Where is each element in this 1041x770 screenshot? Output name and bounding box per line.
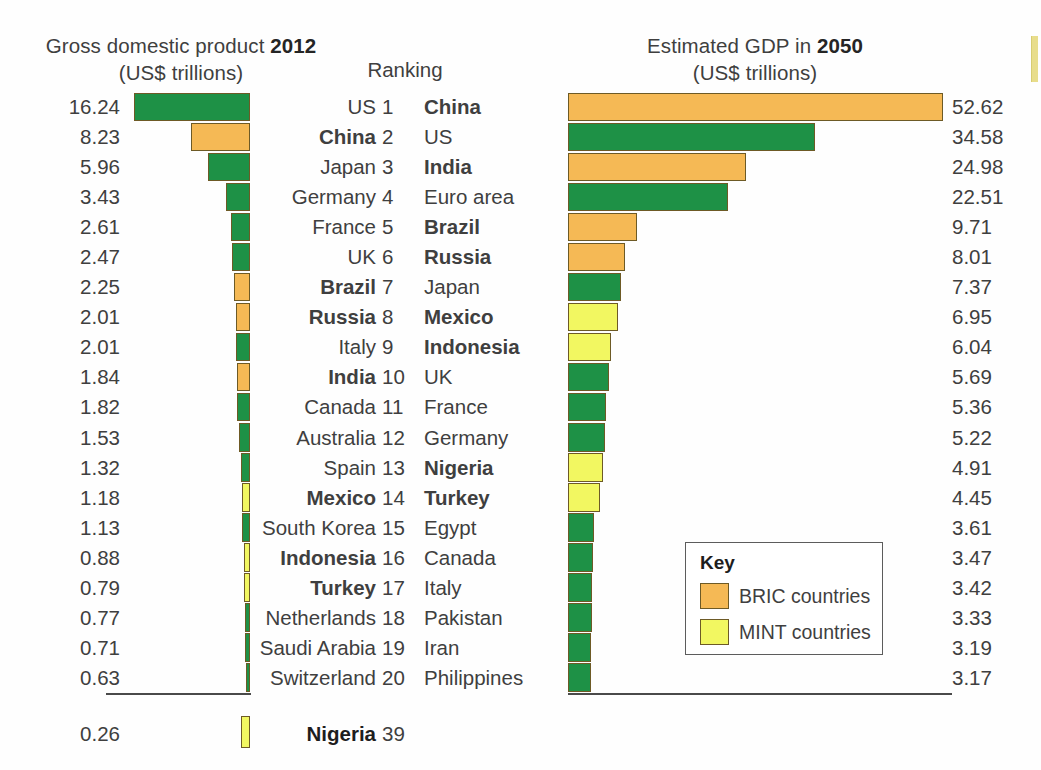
rank-number: 18 <box>382 606 405 630</box>
right-value-label: 4.91 <box>952 456 992 480</box>
left-bar <box>134 93 250 122</box>
chart-row: 20 <box>382 663 416 693</box>
chart-row: Netherlands <box>258 603 376 633</box>
right-title-text: Estimated GDP in <box>647 34 817 57</box>
left-value-label: 0.63 <box>80 666 120 690</box>
right-value-label: 52.62 <box>952 95 1003 119</box>
right-bar <box>568 333 611 362</box>
chart-row: Italy <box>424 573 564 603</box>
ranking-2012-country: Indonesia <box>280 546 376 570</box>
left-bar <box>237 363 250 392</box>
left-bar <box>232 243 250 272</box>
right-bar <box>568 273 621 302</box>
ranking-2050-country: Nigeria <box>424 456 494 480</box>
right-value-labels-column: 52.6234.5824.9822.519.718.017.376.956.04… <box>952 92 1041 693</box>
ranking-2050-country: Philippines <box>424 666 523 690</box>
chart-row: 5.36 <box>952 392 1041 422</box>
chart-row: Canada <box>424 543 564 573</box>
rank-number: 19 <box>382 636 405 660</box>
chart-row <box>125 182 250 212</box>
nigeria-value-label: 0.26 <box>30 722 120 746</box>
rank-number: 8 <box>382 305 393 329</box>
rank-number: 15 <box>382 516 405 540</box>
chart-row <box>125 332 250 362</box>
right-bar <box>568 513 594 542</box>
gdp-ranking-infographic: Gross domestic product 2012 (US$ trillio… <box>0 0 1041 770</box>
left-value-label: 8.23 <box>80 125 120 149</box>
ranking-2050-country: Egypt <box>424 516 476 540</box>
chart-row: Canada <box>258 392 376 422</box>
chart-row: 5 <box>382 212 416 242</box>
chart-row <box>125 272 250 302</box>
left-title-text: Gross domestic product <box>46 34 270 57</box>
ranking-2050-country: UK <box>424 365 452 389</box>
ranking-2012-country: Japan <box>320 155 376 179</box>
right-value-label: 34.58 <box>952 125 1003 149</box>
left-value-label: 1.32 <box>80 456 120 480</box>
chart-row: 5.22 <box>952 423 1041 453</box>
chart-row: 13 <box>382 453 416 483</box>
chart-row: 8.23 <box>30 122 120 152</box>
chart-row: China <box>424 92 564 122</box>
right-bar <box>568 93 943 122</box>
left-value-label: 3.43 <box>80 185 120 209</box>
right-bar <box>568 453 603 482</box>
chart-row <box>125 152 250 182</box>
left-value-label: 0.77 <box>80 606 120 630</box>
chart-row: 7.37 <box>952 272 1041 302</box>
chart-row: 3.61 <box>952 513 1041 543</box>
chart-row <box>125 302 250 332</box>
chart-row <box>125 362 250 392</box>
chart-row: 3.47 <box>952 543 1041 573</box>
chart-row: Japan <box>424 272 564 302</box>
chart-row: South Korea <box>258 513 376 543</box>
nigeria-bar <box>241 716 250 748</box>
chart-row: 1.82 <box>30 392 120 422</box>
rank-number: 11 <box>382 395 403 419</box>
chart-row: 1.18 <box>30 483 120 513</box>
left-value-label: 2.25 <box>80 275 120 299</box>
chart-row <box>125 573 250 603</box>
ranking-2050-names-column: ChinaUSIndiaEuro areaBrazilRussiaJapanMe… <box>424 92 564 693</box>
chart-row <box>568 423 958 453</box>
ranking-2012-country: India <box>328 365 376 389</box>
left-title-year: 2012 <box>270 34 316 57</box>
rank-number: 13 <box>382 456 405 480</box>
chart-row: 3.33 <box>952 603 1041 633</box>
legend-key-box: Key BRIC countries MINT countries <box>685 542 883 655</box>
chart-row <box>568 152 958 182</box>
chart-row <box>568 92 958 122</box>
ranking-2012-country: China <box>319 125 376 149</box>
rank-number: 17 <box>382 576 405 600</box>
chart-row <box>568 302 958 332</box>
chart-row: 52.62 <box>952 92 1041 122</box>
ranking-2012-country: Germany <box>292 185 376 209</box>
ranking-2012-country: Spain <box>324 456 376 480</box>
right-value-label: 3.47 <box>952 546 992 570</box>
chart-row: Mexico <box>424 302 564 332</box>
chart-row: 4.91 <box>952 453 1041 483</box>
chart-row: Mexico <box>258 483 376 513</box>
right-bar <box>568 423 605 452</box>
ranking-2012-country: Brazil <box>320 275 376 299</box>
ranking-2050-country: Germany <box>424 426 508 450</box>
chart-row: US <box>258 92 376 122</box>
rank-number: 14 <box>382 486 405 510</box>
bric-swatch-icon <box>700 583 729 609</box>
chart-row: 1.13 <box>30 513 120 543</box>
left-value-label: 2.61 <box>80 215 120 239</box>
chart-row: 2.01 <box>30 302 120 332</box>
left-bar <box>244 543 250 572</box>
nigeria-country-label: Nigeria <box>258 722 376 746</box>
ranking-2050-country: Japan <box>424 275 480 299</box>
chart-row: 5.69 <box>952 362 1041 392</box>
rank-number: 6 <box>382 245 393 269</box>
right-bar <box>568 213 637 242</box>
nigeria-rank-number: 39 <box>382 722 416 746</box>
ranking-2050-country: India <box>424 155 472 179</box>
chart-row: 11 <box>382 392 416 422</box>
right-value-label: 4.45 <box>952 486 992 510</box>
ranking-2050-country: Italy <box>424 576 462 600</box>
ranking-numbers-column: 1234567891011121314151617181920 <box>382 92 416 693</box>
chart-row: France <box>258 212 376 242</box>
